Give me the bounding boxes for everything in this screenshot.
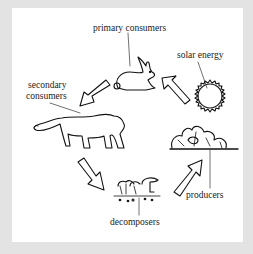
food-cycle-diagram (0, 0, 253, 254)
decomposers-label: decomposers (110, 217, 160, 227)
secondary-consumers-leader-line (50, 103, 80, 113)
primary-consumers-leader-line (128, 33, 130, 66)
secondary-consumers-label-line1: secondary (28, 80, 67, 90)
arrow-primary-to-secondary (80, 80, 110, 106)
plants-icon (170, 126, 238, 149)
arrow-producers-to-primary (162, 76, 190, 104)
primary-consumers-label: primary consumers (93, 23, 166, 33)
mountain-lion-icon (34, 115, 125, 149)
solar-energy-label: solar energy (177, 50, 224, 60)
mushrooms-icon (114, 178, 160, 202)
secondary-consumers-label-line2: consumers (26, 91, 67, 101)
arrow-secondary-to-decomposers (78, 158, 104, 190)
sun-icon (195, 80, 225, 112)
producers-label: producers (186, 190, 223, 200)
rabbit-icon (114, 57, 155, 90)
solar-energy-leader-line (198, 62, 207, 88)
